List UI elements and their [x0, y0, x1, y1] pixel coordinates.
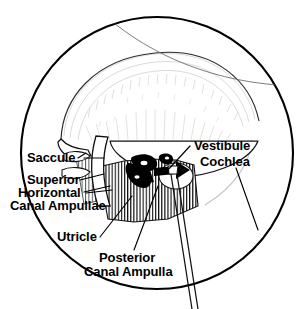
label-posterior: Posterior [99, 251, 155, 264]
bone-flap-edge [61, 52, 259, 139]
anatomical-figure: Saccule Superior Horizontal Canal Ampull… [0, 0, 306, 309]
label-canal-ampullae: Canal Ampullae [10, 199, 106, 212]
label-saccule: Saccule [27, 151, 75, 164]
label-cochlea: Cochlea [200, 155, 250, 168]
label-vestibule: Vestibule [194, 139, 250, 152]
label-utricle: Utricle [57, 230, 97, 243]
bone-dome-group [64, 53, 255, 140]
probe-tip [168, 166, 178, 174]
label-canal-ampulla: Canal Ampulla [84, 265, 173, 278]
